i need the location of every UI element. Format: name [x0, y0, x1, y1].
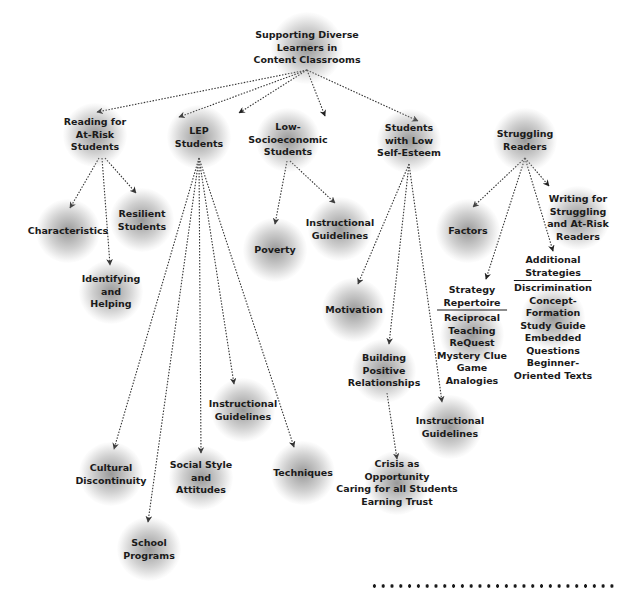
- node-label-line: Relationships: [348, 377, 421, 390]
- node-label-line: Oriented Texts: [514, 370, 592, 383]
- arrow-connector: [199, 158, 234, 384]
- node-label-line: Motivation: [325, 304, 382, 317]
- node-label-line: Students: [175, 137, 223, 150]
- node-label-line: Social Style: [170, 459, 233, 472]
- concept-node-characteristics: Characteristics: [28, 225, 109, 238]
- node-label-line: Cultural: [75, 462, 146, 475]
- node-label-line: Guidelines: [209, 410, 277, 423]
- node-heading-line: Strategy: [437, 284, 507, 297]
- concept-node-resilient: ResilientStudents: [118, 208, 166, 233]
- concept-map: Supporting DiverseLearners inContent Cla…: [0, 0, 633, 594]
- node-label-line: Guidelines: [306, 229, 374, 242]
- node-label-line: Readers: [497, 140, 554, 153]
- node-heading-line: Additional: [514, 254, 592, 267]
- node-label-line: Readers: [547, 231, 609, 244]
- node-label-line: and: [170, 472, 233, 485]
- concept-node-selfesteem-guidelines: InstructionalGuidelines: [416, 415, 484, 440]
- node-label-line: Supporting Diverse: [253, 29, 360, 42]
- node-label-line: Formation: [514, 307, 592, 320]
- node-label-line: Resilient: [118, 208, 166, 221]
- node-label-line: Students: [118, 220, 166, 233]
- node-label-line: Analogies: [437, 374, 507, 387]
- concept-node-techniques: Techniques: [273, 467, 333, 480]
- node-label-line: Characteristics: [28, 225, 109, 238]
- node-label-line: Learners in: [253, 42, 360, 55]
- node-label-line: Self-Esteem: [377, 147, 441, 160]
- concept-node-social: Social StyleandAttitudes: [170, 459, 233, 497]
- node-label-line: Instructional: [209, 398, 277, 411]
- node-heading: StrategyRepertoire: [437, 284, 507, 311]
- node-label-line: Reading for: [64, 116, 126, 129]
- node-label-line: Struggling: [497, 128, 554, 141]
- node-label-line: LEP: [175, 125, 223, 138]
- node-label-line: and At-Risk: [547, 218, 609, 231]
- node-label-line: Reciprocal: [437, 312, 507, 325]
- node-label-line: Students: [377, 122, 441, 135]
- node-label-line: Questions: [514, 345, 592, 358]
- concept-node-writing: Writing forStrugglingand At-RiskReaders: [547, 193, 609, 243]
- concept-node-lowses-guidelines: InstructionalGuidelines: [306, 217, 374, 242]
- node-label-line: Mystery Clue: [437, 349, 507, 362]
- node-label-line: Embedded: [514, 332, 592, 345]
- concept-node-strategy: StrategyRepertoireReciprocalTeachingReQu…: [437, 284, 507, 387]
- node-heading: AdditionalStrategies: [514, 254, 592, 281]
- node-label-line: Caring for all Students: [336, 483, 457, 496]
- concept-node-reading: Reading forAt-RiskStudents: [64, 116, 126, 154]
- node-label-line: Poverty: [254, 244, 296, 257]
- node-label-line: Instructional: [306, 217, 374, 230]
- node-label-line: Study Guide: [514, 320, 592, 333]
- arrow-connector: [102, 158, 110, 265]
- node-label-line: Instructional: [416, 415, 484, 428]
- node-label-line: and: [82, 286, 140, 299]
- node-label-line: Building: [348, 352, 421, 365]
- node-label-line: Low-: [248, 121, 327, 134]
- node-label-line: Attitudes: [170, 484, 233, 497]
- node-label-line: Game: [437, 362, 507, 375]
- node-heading-line: Repertoire: [437, 296, 507, 309]
- node-label-line: Programs: [123, 549, 175, 562]
- concept-node-building: BuildingPositiveRelationships: [348, 352, 421, 390]
- node-label-line: Writing for: [547, 193, 609, 206]
- root-node: Supporting DiverseLearners inContent Cla…: [253, 29, 360, 67]
- node-label-line: Discontinuity: [75, 474, 146, 487]
- arrow-connector: [199, 158, 201, 453]
- concept-node-poverty: Poverty: [254, 244, 296, 257]
- node-label-line: School: [123, 537, 175, 550]
- node-label-line: ReQuest: [437, 337, 507, 350]
- node-label-line: Discrimination: [514, 282, 592, 295]
- node-label-line: Helping: [82, 298, 140, 311]
- concept-node-lep: LEPStudents: [175, 125, 223, 150]
- node-label-line: Students: [64, 141, 126, 154]
- node-label-line: Content Classrooms: [253, 54, 360, 67]
- node-label-line: Crisis as: [336, 458, 457, 471]
- node-heading-line: Strategies: [514, 267, 592, 280]
- node-label-line: Students: [248, 146, 327, 159]
- concept-node-identifying: IdentifyingandHelping: [82, 273, 140, 311]
- node-label-line: Positive: [348, 365, 421, 378]
- concept-node-struggling: StrugglingReaders: [497, 128, 554, 153]
- node-label-line: Earning Trust: [336, 496, 457, 509]
- node-label-line: Opportunity: [336, 471, 457, 484]
- node-label-line: Struggling: [547, 206, 609, 219]
- concept-node-factors: Factors: [448, 225, 487, 238]
- node-label-line: Identifying: [82, 273, 140, 286]
- concept-node-motivation: Motivation: [325, 304, 382, 317]
- node-label-line: Beginner-: [514, 357, 592, 370]
- footer-dotted-rule: [370, 584, 616, 588]
- node-label-line: Teaching: [437, 324, 507, 337]
- concept-node-lep-guidelines: InstructionalGuidelines: [209, 398, 277, 423]
- arrow-connector: [389, 164, 409, 344]
- node-label-line: Techniques: [273, 467, 333, 480]
- concept-node-lowses: Low-SocioeconomicStudents: [248, 121, 327, 159]
- node-label-line: Concept-: [514, 295, 592, 308]
- node-label-line: Factors: [448, 225, 487, 238]
- node-label-line: Guidelines: [416, 427, 484, 440]
- node-label-line: Socioeconomic: [248, 134, 327, 147]
- node-label-line: At-Risk: [64, 129, 126, 142]
- node-label-line: with Low: [377, 135, 441, 148]
- concept-node-cultural: CulturalDiscontinuity: [75, 462, 146, 487]
- arrow-connector: [387, 393, 397, 459]
- concept-node-crisis: Crisis asOpportunityCaring for all Stude…: [336, 458, 457, 508]
- concept-node-selfesteem: Studentswith LowSelf-Esteem: [377, 122, 441, 160]
- concept-node-school: SchoolPrograms: [123, 537, 175, 562]
